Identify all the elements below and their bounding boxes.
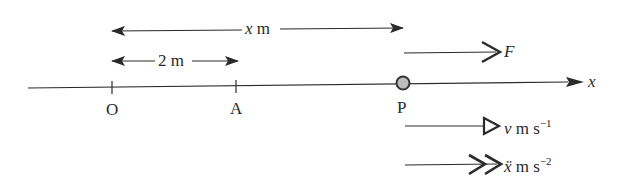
- open-triangle-arrowhead-icon: [484, 118, 499, 134]
- acceleration-label: ẍ m s−2: [504, 156, 552, 175]
- point-label-O: O: [106, 101, 118, 118]
- dimension-OA-value: 2: [158, 51, 167, 70]
- point-label-P: P: [397, 99, 406, 116]
- dimension-OA-unit: m: [167, 51, 184, 70]
- velocity-variable: v: [504, 119, 512, 138]
- acceleration-exponent: −2: [540, 155, 552, 167]
- velocity-vector: [405, 118, 499, 134]
- velocity-label: v m s−1: [504, 118, 552, 137]
- acceleration-vector: [405, 155, 501, 174]
- force-label: F: [504, 43, 514, 60]
- acceleration-unit: m s: [512, 157, 540, 176]
- diagram-canvas: x m 2 m O A P x F v m s−1 ẍ m s−2: [0, 0, 622, 190]
- acceleration-variable: ẍ: [504, 157, 512, 176]
- velocity-exponent: −1: [540, 117, 552, 129]
- dimension-OP-variable: x: [245, 19, 253, 38]
- dimension-OP-unit: m: [253, 19, 270, 38]
- force-vector: [404, 42, 500, 62]
- dimension-label-OP: x m: [245, 20, 270, 37]
- x-axis-label: x: [588, 73, 596, 90]
- x-axis-arrowhead-icon: [566, 77, 584, 87]
- dimension-label-OA: 2 m: [158, 52, 184, 69]
- particle-P-icon: [397, 77, 410, 90]
- velocity-unit: m s: [512, 119, 540, 138]
- point-label-A: A: [230, 100, 242, 117]
